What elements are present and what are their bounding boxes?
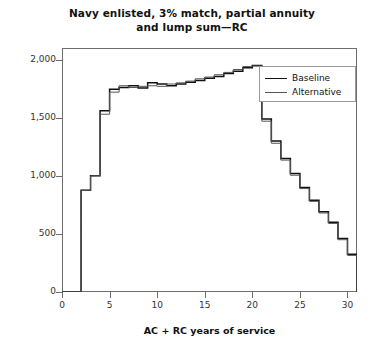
- x-tick-mark: [110, 292, 111, 298]
- y-tick-label: 0: [16, 286, 56, 296]
- x-tick-mark: [62, 292, 63, 298]
- y-tick-label: 500: [16, 228, 56, 238]
- x-tick-mark: [300, 292, 301, 298]
- y-tick-label: 1,000: [16, 170, 56, 180]
- x-tick-mark: [347, 292, 348, 298]
- chart-title: Navy enlisted, 3% match, partial annuity…: [0, 6, 384, 34]
- legend-label-alternative: Alternative: [292, 87, 341, 97]
- legend: Baseline Alternative: [259, 66, 356, 102]
- x-tick-mark: [157, 292, 158, 298]
- x-tick-label: 10: [142, 300, 172, 310]
- x-tick-label: 25: [285, 300, 315, 310]
- chart-title-line-2: and lump sum—RC: [0, 20, 384, 34]
- x-tick-label: 20: [237, 300, 267, 310]
- x-tick-label: 0: [47, 300, 77, 310]
- x-tick-mark: [252, 292, 253, 298]
- x-axis-label: AC + RC years of service: [62, 325, 357, 336]
- legend-label-baseline: Baseline: [292, 73, 330, 83]
- legend-swatch-baseline: [265, 78, 287, 79]
- y-tick-label: 2,000: [16, 54, 56, 64]
- legend-item-alternative: Alternative: [265, 85, 350, 99]
- x-tick-label: 30: [332, 300, 362, 310]
- y-tick-label: 1,500: [16, 112, 56, 122]
- chart-title-line-1: Navy enlisted, 3% match, partial annuity: [69, 7, 315, 19]
- x-tick-mark: [205, 292, 206, 298]
- legend-swatch-alternative: [265, 92, 287, 93]
- x-tick-label: 5: [95, 300, 125, 310]
- x-tick-label: 15: [190, 300, 220, 310]
- chart-container: Navy enlisted, 3% match, partial annuity…: [0, 0, 384, 351]
- legend-item-baseline: Baseline: [265, 71, 350, 85]
